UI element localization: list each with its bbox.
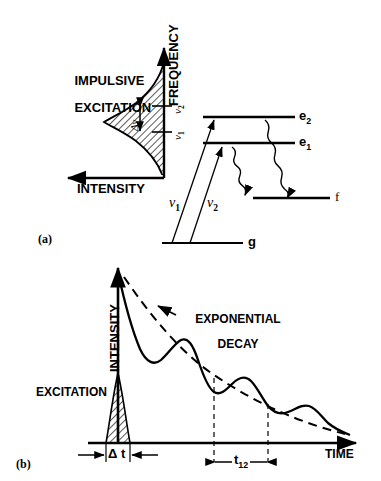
absorption-arrow-nu2 bbox=[190, 147, 222, 243]
emission-arrow-e1-f bbox=[230, 146, 247, 195]
intensity-axis-label-a: INTENSITY bbox=[77, 182, 145, 196]
decay-callout-arrow bbox=[158, 306, 176, 315]
panel-a-tag: (a) bbox=[38, 233, 52, 246]
emission-arrow-e2-f bbox=[263, 119, 289, 198]
tick-label-nu2: ν2 bbox=[172, 105, 186, 114]
nu2-sub: 2 bbox=[177, 105, 186, 109]
frequency-axis-label: FREQUENCY bbox=[167, 24, 181, 106]
level-label-f: f bbox=[335, 190, 339, 204]
level-label-e1: e1 bbox=[299, 135, 311, 152]
beat-period-label: t12 bbox=[234, 453, 248, 470]
figure-canvas bbox=[0, 0, 381, 481]
transition-label-nu2: ν2 bbox=[207, 196, 218, 213]
nu1-glyph: ν bbox=[171, 135, 183, 140]
figure-quantum-beats: IMPULSIVE EXCITATION FREQUENCY INTENSITY… bbox=[0, 0, 381, 481]
t12-sub: 12 bbox=[238, 460, 248, 470]
e2-sub: 2 bbox=[306, 116, 311, 126]
level-label-e2: e2 bbox=[299, 109, 311, 126]
delta-nu-label: Δν bbox=[129, 120, 141, 131]
transition-label-nu1: ν1 bbox=[169, 196, 180, 213]
excitation-pulse bbox=[106, 373, 130, 443]
nu2-glyph: ν bbox=[171, 109, 183, 114]
decay-line-1: EXPONENTIAL bbox=[195, 312, 280, 326]
time-axis-label: TIME bbox=[325, 448, 354, 461]
nu1-sub: 1 bbox=[177, 131, 186, 135]
e1-sub: 1 bbox=[306, 142, 311, 152]
trans-nu1-sub: 1 bbox=[175, 203, 180, 213]
impulsive-excitation-title: IMPULSIVE EXCITATION bbox=[60, 60, 151, 128]
title-line-2: EXCITATION bbox=[74, 100, 151, 115]
excitation-label: EXCITATION bbox=[36, 386, 107, 399]
intensity-axis-label-b: INTENSITY bbox=[108, 304, 122, 372]
level-label-g: g bbox=[248, 235, 256, 249]
decay-line-2: DECAY bbox=[218, 337, 259, 351]
delta-t-label: Δ t bbox=[108, 447, 125, 461]
tick-label-nu1: ν1 bbox=[172, 131, 186, 140]
exponential-decay-label: EXPONENTIAL DECAY bbox=[182, 300, 281, 363]
trans-nu2-sub: 2 bbox=[213, 203, 218, 213]
title-line-1: IMPULSIVE bbox=[74, 73, 144, 88]
panel-b-tag: (b) bbox=[16, 458, 31, 471]
